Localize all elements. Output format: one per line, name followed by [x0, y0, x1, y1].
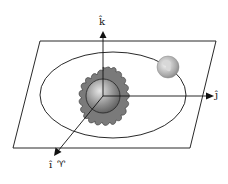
- k-axis-label: k̂: [99, 17, 105, 27]
- diagram-canvas: [0, 0, 228, 184]
- axes: [54, 31, 214, 156]
- j-axis-label: ĵ: [215, 90, 218, 100]
- i-axis-label: î: [49, 160, 52, 170]
- aries-symbol: ♈: [57, 160, 65, 169]
- j-arrowhead: [206, 93, 214, 100]
- k-arrowhead: [100, 31, 107, 38]
